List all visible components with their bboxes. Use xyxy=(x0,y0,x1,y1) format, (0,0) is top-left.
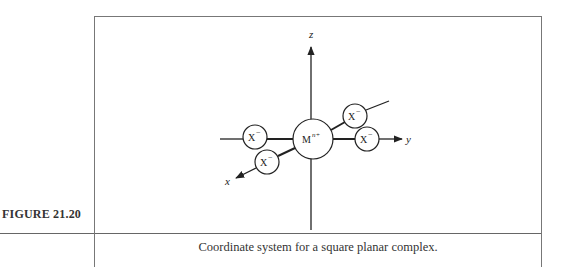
ligand-back: X − xyxy=(343,104,367,128)
y-axis-label: y xyxy=(405,133,411,145)
svg-text:X: X xyxy=(348,111,356,122)
svg-text:X: X xyxy=(248,132,256,143)
metal-atom: M n+ xyxy=(293,119,333,159)
svg-text:−: − xyxy=(356,107,361,116)
x-axis-label: x xyxy=(224,175,230,187)
metal-charge: n+ xyxy=(312,131,321,139)
svg-text:−: − xyxy=(368,130,373,139)
coordinate-diagram: z y x M n+ X − X − X − X − xyxy=(0,0,569,267)
ligand-right: X − xyxy=(355,127,379,151)
svg-text:X: X xyxy=(260,157,268,168)
ligand-front: X − xyxy=(255,150,279,174)
svg-text:−: − xyxy=(268,153,273,162)
z-axis-label: z xyxy=(308,28,314,40)
svg-text:X: X xyxy=(360,134,368,145)
svg-text:−: − xyxy=(256,128,261,137)
ligand-left: X − xyxy=(243,125,267,149)
metal-symbol: M xyxy=(302,134,311,145)
